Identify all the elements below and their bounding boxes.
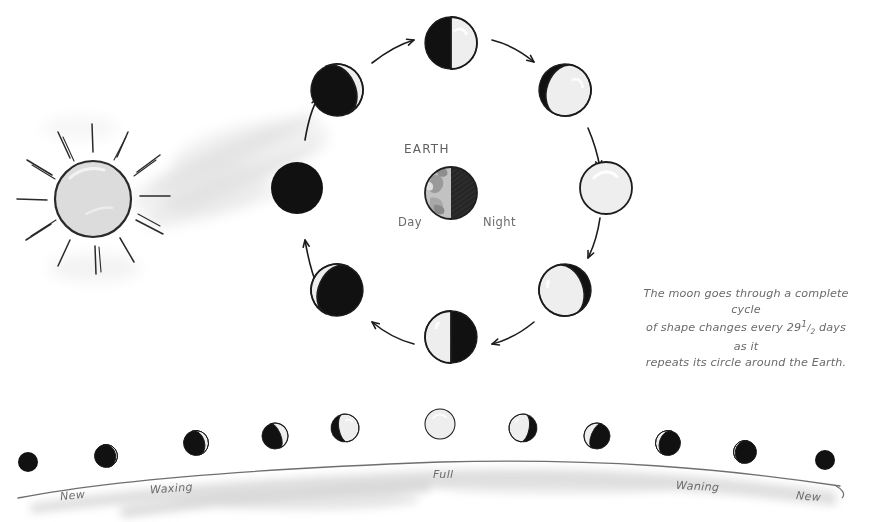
strip-moon-crescent-2 — [180, 427, 212, 459]
strip-moon-new-left — [18, 452, 38, 472]
strip-label-new-right: New — [795, 489, 821, 504]
strip-moon-new-right — [815, 450, 835, 470]
strip-moon-crescent-1 — [92, 442, 120, 470]
strip-label-full: Full — [433, 468, 454, 481]
strip-moon-crescent-3 — [258, 419, 292, 453]
strip-moon-gibbous-1 — [329, 412, 361, 444]
strip-moon-crescent-5 — [652, 427, 684, 459]
strip-label-new-left: New — [59, 488, 85, 504]
strip-moon-crescent-4 — [580, 419, 614, 453]
phase-strip-layer — [0, 0, 874, 522]
strip-moon-full — [425, 409, 455, 439]
moon-phases-diagram: EARTH Day Night The moon goes through a … — [0, 0, 874, 522]
strip-moon-gibbous-2 — [507, 412, 539, 444]
strip-moon-crescent-6 — [731, 438, 759, 466]
horizon-line-tail — [836, 486, 844, 498]
strip-label-waning: Waning — [676, 479, 720, 494]
